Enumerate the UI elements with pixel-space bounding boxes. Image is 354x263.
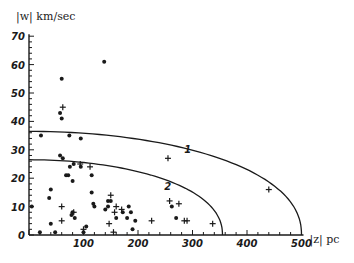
dot-marker (58, 111, 62, 115)
dot-marker (90, 190, 94, 194)
cross-marker (110, 229, 116, 235)
dot-marker (73, 216, 77, 220)
dot-marker (92, 205, 96, 209)
dot-marker (71, 179, 75, 183)
y-tick-label: 60 (11, 60, 25, 71)
dot-marker (125, 216, 129, 220)
dot-marker (70, 213, 74, 217)
dot-marker (129, 210, 133, 214)
y-tick-label: 10 (11, 202, 25, 213)
cross-marker (266, 187, 272, 193)
dot-marker (90, 173, 94, 177)
y-axis-title: |w| km/sec (16, 10, 75, 24)
y-tick-label: 70 (11, 31, 25, 42)
x-tick-label: 200 (128, 238, 149, 249)
data-points (30, 60, 272, 235)
x-tick-label: 300 (182, 238, 203, 249)
dot-marker (68, 165, 72, 169)
cross-marker (60, 104, 66, 110)
curve-label-1: 1 (184, 144, 191, 155)
dot-marker (79, 136, 83, 140)
dot-marker (174, 216, 178, 220)
dot-marker (109, 199, 113, 203)
dot-marker (84, 224, 88, 228)
dot-marker (49, 222, 53, 226)
boundary-curves: 12 (29, 131, 302, 235)
dot-marker (66, 173, 70, 177)
cross-marker (108, 192, 114, 198)
dot-marker (61, 156, 65, 160)
curve-label-2: 2 (164, 181, 171, 192)
dot-marker (133, 219, 137, 223)
cross-marker (113, 204, 119, 210)
cross-marker (59, 204, 65, 210)
cross-marker (112, 209, 118, 215)
dot-marker (49, 188, 53, 192)
x-tick-label: 100 (73, 238, 94, 249)
cross-marker (87, 164, 93, 170)
y-axis: 010203040506070 (10, 31, 34, 241)
cross-marker (210, 221, 216, 227)
dot-marker (47, 196, 51, 200)
y-tick-label: 0 (18, 230, 25, 241)
cross-marker (106, 221, 112, 227)
dot-marker (72, 162, 76, 166)
dot-marker (170, 205, 174, 209)
dot-marker (30, 205, 34, 209)
dot-marker (114, 216, 118, 220)
dot-marker (67, 134, 71, 138)
cross-marker (176, 201, 182, 207)
boundary-curve-2 (29, 160, 223, 235)
dot-marker (127, 205, 131, 209)
dot-marker (103, 207, 107, 211)
x-axis-title: |z| pc (310, 233, 340, 247)
dot-marker (39, 134, 43, 138)
scatter-chart: |w| km/sec 010203040506070 1002003004005… (0, 0, 354, 263)
y-tick-label: 20 (11, 173, 25, 184)
cross-marker (165, 155, 171, 161)
y-tick-label: 40 (10, 116, 25, 127)
dot-marker (60, 77, 64, 81)
cross-marker (184, 218, 190, 224)
dot-marker (60, 117, 64, 121)
cross-marker (167, 198, 173, 204)
dot-marker (38, 230, 42, 234)
dot-marker (102, 60, 106, 64)
x-axis: 100200300400500 (29, 230, 312, 249)
x-tick-label: 400 (236, 238, 258, 249)
dot-marker (131, 227, 135, 231)
y-tick-label: 30 (11, 145, 25, 156)
y-tick-label: 50 (11, 88, 25, 99)
cross-marker (149, 218, 155, 224)
cross-marker (59, 218, 65, 224)
dot-marker (53, 230, 57, 234)
